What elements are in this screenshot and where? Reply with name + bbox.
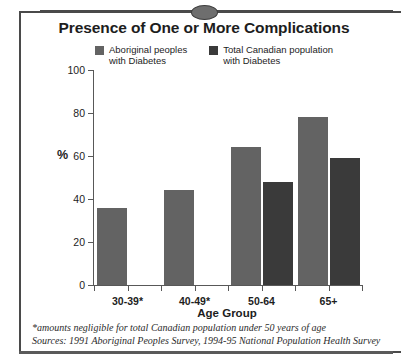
bar-group: 50-64 — [228, 70, 295, 285]
bar — [97, 208, 127, 285]
x-tick-mark — [295, 285, 296, 291]
x-tick-mark — [161, 285, 162, 291]
plot-area: 020406080100 30-39*40-49*50-6465+ — [93, 70, 362, 286]
footnote-line: *amounts negligible for total Canadian p… — [32, 322, 382, 335]
y-axis-label: % — [57, 148, 68, 162]
bar — [298, 117, 328, 285]
bar-group: 40-49* — [161, 70, 228, 285]
legend-label: Aboriginal peoples with Diabetes — [109, 44, 187, 66]
frame-bottom-line — [19, 351, 393, 354]
y-tick-label: 100 — [67, 64, 85, 76]
legend-swatch-icon — [95, 46, 104, 55]
x-tick-mark — [262, 285, 263, 291]
bar — [164, 190, 194, 285]
bar — [231, 147, 261, 285]
y-tick-label: 20 — [73, 236, 85, 248]
x-tick-mark — [128, 285, 129, 291]
x-tick-mark — [362, 285, 363, 291]
footnotes: *amounts negligible for total Canadian p… — [32, 322, 382, 347]
x-tick-label: 50-64 — [248, 295, 275, 307]
legend-item-0: Aboriginal peoples with Diabetes — [95, 44, 187, 66]
x-tick-label: 65+ — [320, 295, 338, 307]
legend-label: Total Canadian population with Diabetes — [223, 44, 333, 66]
x-axis-label: Age Group — [93, 307, 361, 319]
bar — [330, 158, 360, 285]
bar-groups: 30-39*40-49*50-6465+ — [94, 70, 362, 285]
x-tick-mark — [94, 285, 95, 291]
legend-swatch-icon — [209, 46, 218, 55]
x-tick-label: 30-39* — [112, 295, 143, 307]
bar — [263, 182, 293, 285]
y-tick-label: 80 — [73, 107, 85, 119]
x-tick-label: 40-49* — [179, 295, 210, 307]
bar-group: 65+ — [295, 70, 362, 285]
x-tick-mark — [195, 285, 196, 291]
footnote-line: Sources: 1991 Aboriginal Peoples Survey,… — [32, 335, 382, 348]
y-tick-label: 60 — [73, 150, 85, 162]
y-tick-label: 0 — [79, 279, 85, 291]
y-tick-label: 40 — [73, 193, 85, 205]
x-tick-mark — [228, 285, 229, 291]
chart-legend: Aboriginal peoples with DiabetesTotal Ca… — [95, 44, 385, 66]
chart-title: Presence of One or More Complications — [19, 19, 389, 37]
legend-item-1: Total Canadian population with Diabetes — [209, 44, 333, 66]
oval-ornament-icon — [191, 5, 218, 20]
bar-group: 30-39* — [94, 70, 161, 285]
x-tick-mark — [329, 285, 330, 291]
